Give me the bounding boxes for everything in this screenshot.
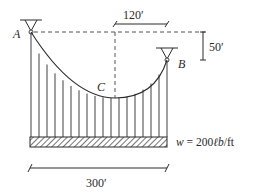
deck-beam <box>30 137 167 147</box>
dimension-50-label: 50′ <box>209 40 224 54</box>
support-b-icon <box>156 48 178 62</box>
load-label: w = 200ℓb/ft <box>176 136 235 148</box>
label-b: B <box>178 57 186 71</box>
label-a: A <box>12 27 21 41</box>
dimension-300-label: 300′ <box>86 176 107 190</box>
label-c: C <box>97 80 106 94</box>
dimension-50 <box>200 32 206 60</box>
dimension-300 <box>28 164 169 172</box>
cable-diagram: 120′ 50′ A B C w = 200ℓb/ft 300′ <box>0 0 258 195</box>
support-a-icon <box>20 20 42 34</box>
dimension-120-label: 120′ <box>123 8 144 22</box>
